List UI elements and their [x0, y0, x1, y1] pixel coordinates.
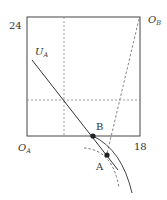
point-a-label: A [95, 161, 104, 172]
origin-a-main: O [18, 142, 26, 153]
y-max-label: 24 [9, 20, 22, 31]
origin-a-label: OA [18, 142, 31, 155]
x-max-label: 18 [134, 141, 147, 152]
point-b-label: B [96, 121, 103, 132]
origin-a-sub: A [25, 147, 31, 155]
edgeworth-box-diagram: 24 18 OA OB UA B A [0, 0, 167, 200]
origin-b-label: OB [148, 14, 161, 27]
curve-ua-sub: A [42, 51, 48, 59]
dashed-line-from-ob [106, 19, 139, 158]
origin-b-main: O [148, 14, 156, 25]
point-b-marker [90, 133, 95, 138]
edgeworth-box-frame [27, 17, 140, 136]
origin-b-sub: B [155, 19, 161, 27]
curve-ua-label: UA [35, 46, 48, 59]
point-a-marker [104, 152, 109, 157]
